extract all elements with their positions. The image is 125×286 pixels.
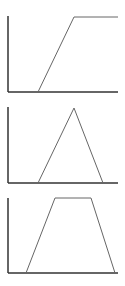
membership-curve <box>26 198 115 273</box>
membership-curve <box>38 108 103 183</box>
trapezoid-chart <box>8 198 118 273</box>
membership-function-diagrams <box>0 0 125 286</box>
ramp-chart <box>8 16 118 92</box>
membership-curve <box>38 17 118 92</box>
triangle-chart <box>8 107 118 183</box>
